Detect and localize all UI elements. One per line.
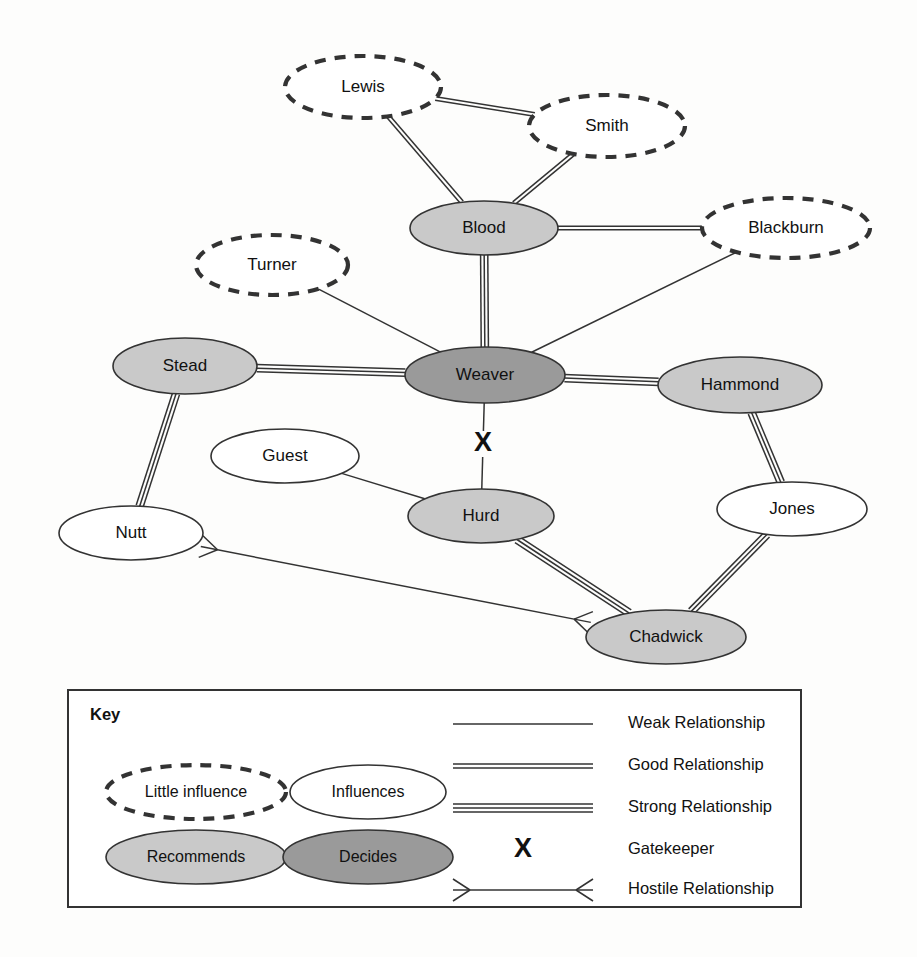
key-shape-decides: Decides: [283, 830, 453, 884]
gatekeeper-x-icon: X: [474, 427, 492, 457]
key-legend: KeyLittle influenceInfluencesRecommendsD…: [68, 690, 801, 907]
edge-guest-hurd: [342, 473, 425, 498]
node-hammond[interactable]: Hammond: [658, 357, 822, 413]
key-line-label: Weak Relationship: [628, 713, 765, 731]
key-gatekeeper-x-icon: X: [514, 833, 532, 863]
key-line-label: Strong Relationship: [628, 797, 772, 815]
node-smith[interactable]: Smith: [529, 95, 685, 157]
edge-lewis-blood: [387, 115, 463, 203]
node-label: Chadwick: [629, 627, 703, 646]
node-jones[interactable]: Jones: [717, 482, 867, 536]
node-hurd[interactable]: Hurd: [408, 489, 554, 543]
key-title: Key: [90, 705, 121, 723]
key-shape-label: Little influence: [145, 783, 247, 800]
key-line-label: Good Relationship: [628, 755, 764, 773]
edge-hurd-chadwick: [515, 536, 631, 616]
node-label: Smith: [585, 116, 628, 135]
edge-turner-weaver: [318, 289, 440, 352]
key-shape-influences: Influences: [290, 765, 446, 819]
node-weaver[interactable]: Weaver: [405, 347, 565, 403]
nodes-layer: LewisSmithBloodBlackburnTurnerSteadWeave…: [59, 56, 870, 664]
edge-weaver-blackburn: [532, 252, 737, 352]
key-shape-label: Recommends: [147, 848, 246, 865]
node-label: Jones: [769, 499, 814, 518]
edge-smith-blood: [513, 153, 575, 205]
key-line-label: Gatekeeper: [628, 839, 715, 857]
node-label: Lewis: [341, 77, 384, 96]
edge-lewis-smith: [435, 97, 535, 116]
node-stead[interactable]: Stead: [113, 338, 257, 394]
key-line-label: Hostile Relationship: [628, 879, 774, 897]
key-shape-label: Decides: [339, 848, 397, 865]
edge-weaver-hammond: [564, 375, 658, 386]
influence-map-svg: X LewisSmithBloodBlackburnTurnerSteadWea…: [0, 0, 917, 957]
key-shape-label: Influences: [332, 783, 405, 800]
node-turner[interactable]: Turner: [196, 235, 348, 295]
node-lewis[interactable]: Lewis: [285, 56, 441, 118]
diagram-canvas: X LewisSmithBloodBlackburnTurnerSteadWea…: [0, 0, 917, 957]
key-shape-recommends: Recommends: [106, 830, 286, 884]
node-label: Hurd: [463, 506, 500, 525]
node-guest[interactable]: Guest: [211, 429, 359, 483]
node-label: Blackburn: [748, 218, 824, 237]
node-nutt[interactable]: Nutt: [59, 506, 203, 560]
node-label: Hammond: [701, 375, 779, 394]
edge-stead-nutt: [136, 393, 179, 508]
node-label: Blood: [462, 218, 505, 237]
node-label: Stead: [163, 356, 207, 375]
node-label: Guest: [262, 446, 308, 465]
edge-hammond-jones: [748, 411, 784, 483]
node-label: Nutt: [115, 523, 146, 542]
edge-jones-chadwick: [689, 532, 770, 614]
edge-blood-weaver: [481, 255, 489, 347]
node-label: Weaver: [456, 365, 515, 384]
edge-blood-blackburn: [558, 226, 702, 230]
node-blood[interactable]: Blood: [410, 201, 558, 255]
edge-stead-weaver: [257, 365, 406, 377]
node-label: Turner: [247, 255, 297, 274]
key-shape-little-influence: Little influence: [106, 765, 286, 819]
node-blackburn[interactable]: Blackburn: [702, 198, 870, 258]
node-chadwick[interactable]: Chadwick: [586, 610, 746, 664]
